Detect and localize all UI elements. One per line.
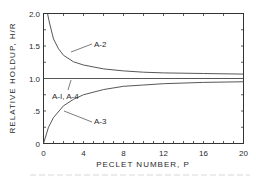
annotation-a3: A-3 xyxy=(94,117,107,126)
annotation-a2: A-2 xyxy=(94,40,107,49)
annotation-leaders xyxy=(64,44,92,122)
y-tick-0: 0 xyxy=(36,140,41,149)
x-tick-16: 16 xyxy=(199,149,208,158)
x-tick-0: 0 xyxy=(41,149,46,158)
y-tick-1-5: 1.5 xyxy=(29,42,41,51)
holdup-chart: A-2 A-I, A-4 A-3 2.0 1.5 1.0 .5 0 0 4 8 … xyxy=(0,0,256,176)
x-tick-20: 20 xyxy=(239,149,248,158)
y-tick-1-0: 1.0 xyxy=(29,75,41,84)
annotation-a1-a4: A-I, A-4 xyxy=(52,92,79,101)
x-tick-12: 12 xyxy=(159,149,168,158)
x-axis-label: PECLET NUMBER, P xyxy=(96,160,190,169)
series-a3-curve xyxy=(44,82,244,144)
x-tick-8: 8 xyxy=(121,149,126,158)
y-axis-label: RELATIVE HOLDUP, H/R xyxy=(8,23,17,134)
x-tick-4: 4 xyxy=(81,149,86,158)
y-tick-0-5: .5 xyxy=(33,107,40,116)
series-a2-curve xyxy=(48,14,244,75)
y-tick-2-0: 2.0 xyxy=(29,10,41,19)
